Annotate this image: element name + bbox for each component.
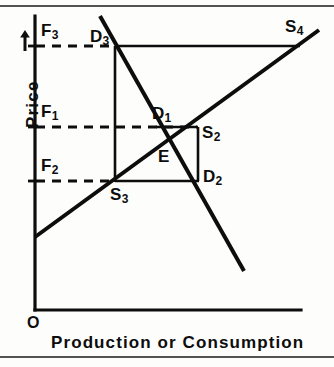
figure-container: Price F3 F1 F2 D3 S4 D1 S2 E S3 D2 O Pro… [0, 0, 334, 367]
x-axis-label: Production or Consumption [51, 334, 304, 351]
up-arrow-icon [18, 30, 32, 52]
point-label-d1: D1 [152, 105, 172, 122]
supply-curve [35, 30, 319, 237]
y-axis-label: Price [24, 80, 41, 128]
figure-drawing [0, 0, 334, 367]
price-level-label-f3: F3 [41, 22, 59, 39]
origin-label: O [27, 315, 40, 331]
point-label-s3: S3 [110, 186, 129, 203]
point-label-e: E [158, 148, 170, 165]
point-label-s4: S4 [285, 18, 304, 35]
point-label-d2: D2 [203, 168, 223, 185]
price-level-label-f1: F1 [41, 103, 59, 120]
demand-curve [100, 16, 244, 271]
point-label-d3: D3 [90, 28, 110, 45]
price-level-label-f2: F2 [41, 157, 59, 174]
point-label-s2: S2 [202, 124, 221, 141]
